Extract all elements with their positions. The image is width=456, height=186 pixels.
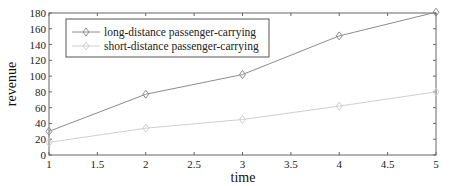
y-axis-title: revenue — [4, 62, 19, 106]
y-tick-label: 40 — [35, 117, 47, 129]
x-tick-label: 1.5 — [91, 158, 105, 170]
legend-label-long: long-distance passenger-carrying — [104, 26, 256, 39]
y-tick-label: 180 — [30, 7, 47, 19]
x-tick-label: 1 — [46, 158, 52, 170]
x-tick-label: 2.5 — [187, 158, 201, 170]
y-tick-label: 80 — [35, 86, 47, 98]
y-tick-label: 60 — [35, 102, 47, 114]
x-tick-label: 3.5 — [284, 158, 298, 170]
x-tick-label: 4 — [337, 158, 343, 170]
y-tick-label: 140 — [30, 39, 47, 51]
legend-label-short: short-distance passenger-carrying — [104, 40, 259, 53]
x-tick-label: 3 — [240, 158, 246, 170]
x-tick-label: 4.5 — [381, 158, 395, 170]
y-tick-label: 20 — [35, 133, 47, 145]
legend: long-distance passenger-carrying short-d… — [66, 19, 269, 57]
y-tick-label: 100 — [30, 70, 47, 82]
line-chart: 020406080100120140160180 11.522.533.544.… — [0, 0, 456, 186]
y-tick-label: 120 — [30, 54, 47, 66]
x-axis-title: time — [231, 170, 256, 185]
x-tick-label: 5 — [433, 158, 439, 170]
y-tick-label: 160 — [30, 23, 47, 35]
x-tick-label: 2 — [143, 158, 149, 170]
